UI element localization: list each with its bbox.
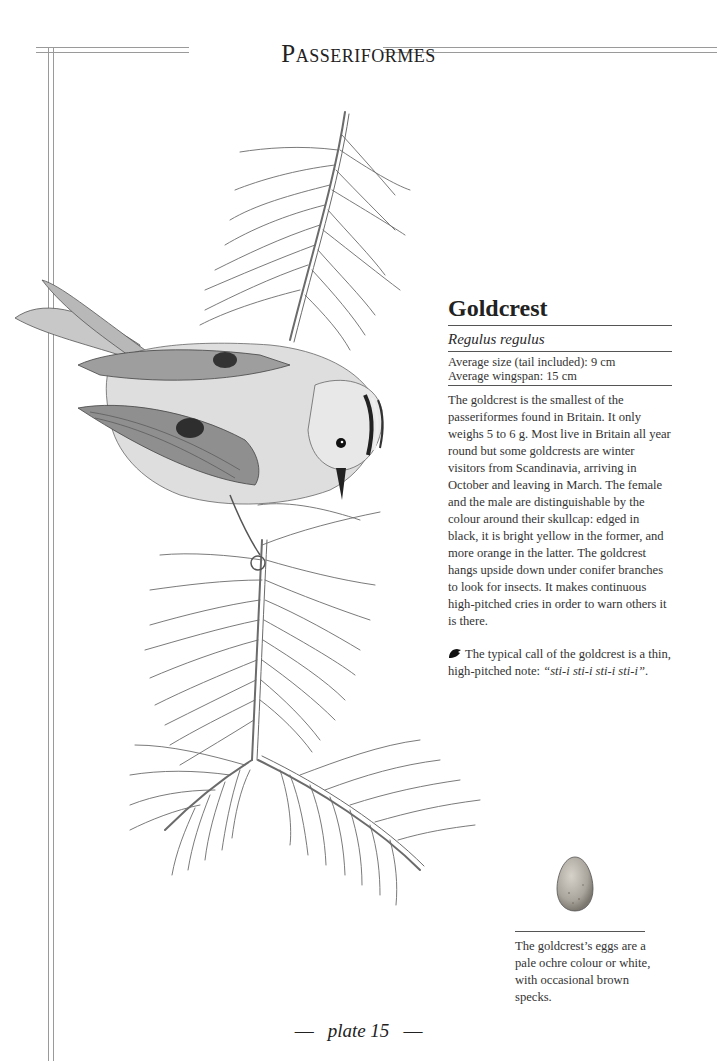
- goldcrest-bird: [15, 280, 382, 570]
- bird-head-icon: [448, 648, 462, 659]
- plate-label: plate 15: [328, 1020, 390, 1041]
- species-description: The goldcrest is the smallest of the pas…: [448, 392, 672, 630]
- divider: [448, 325, 672, 326]
- species-latin-name: Regulus regulus: [448, 329, 672, 349]
- call-words: “sti-i sti-i sti-i sti-i”: [543, 664, 645, 678]
- conifer-branch: [130, 112, 480, 905]
- average-wingspan: Average wingspan: 15 cm: [448, 369, 672, 383]
- species-info: Goldcrest Regulus regulus Average size (…: [448, 293, 672, 680]
- egg-illustration: [555, 855, 595, 913]
- plate-number: —plate 15—: [0, 1020, 717, 1042]
- average-size: Average size (tail included): 9 cm: [448, 355, 672, 369]
- call-end: .: [645, 664, 648, 678]
- divider: [448, 351, 672, 352]
- egg-divider: [515, 931, 645, 932]
- call-note: The typical call of the goldcrest is a t…: [448, 646, 672, 680]
- divider: [448, 385, 672, 386]
- dash-right: —: [403, 1020, 422, 1041]
- page-title: Passeriformes: [0, 40, 717, 68]
- dash-left: —: [295, 1020, 314, 1041]
- egg-caption: The goldcrest’s eggs are a pale ochre co…: [515, 938, 665, 1006]
- species-common-name: Goldcrest: [448, 293, 672, 323]
- goldcrest-illustration: [0, 100, 500, 930]
